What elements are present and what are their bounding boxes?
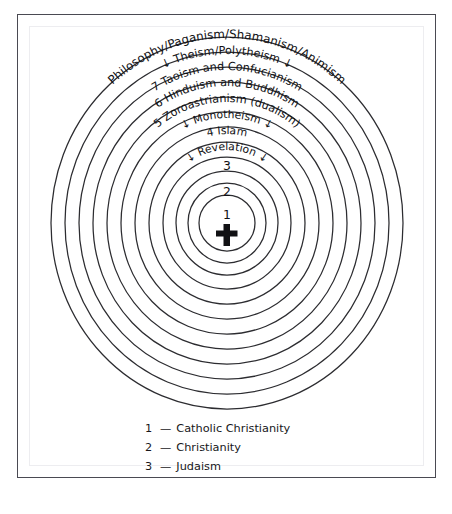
diagram-page: Philosophy/Paganism/Shamanism/Animism ↓ … bbox=[0, 0, 452, 514]
arc-label-islam: 4 Islam bbox=[205, 124, 248, 139]
legend: 1 — Catholic Christianity 2 — Christiani… bbox=[145, 419, 395, 476]
legend-item-1: 1 — Catholic Christianity bbox=[145, 419, 395, 438]
ring-number-3: 3 bbox=[223, 158, 231, 173]
legend-dash-3: — bbox=[154, 457, 176, 476]
legend-label-2: Christianity bbox=[176, 438, 241, 457]
legend-key-1: 1 bbox=[145, 419, 154, 438]
legend-dash-2: — bbox=[154, 438, 176, 457]
ring-number-2: 2 bbox=[223, 184, 231, 199]
latin-cross-icon bbox=[216, 224, 238, 246]
legend-item-3: 3 — Judaism bbox=[145, 457, 395, 476]
legend-key-2: 2 bbox=[145, 438, 154, 457]
legend-label-1: Catholic Christianity bbox=[176, 419, 290, 438]
legend-item-2: 2 — Christianity bbox=[145, 438, 395, 457]
arc-label-monotheism-text: Monotheism bbox=[191, 108, 262, 127]
legend-key-3: 3 bbox=[145, 457, 154, 476]
legend-dash-1: — bbox=[154, 419, 176, 438]
ring-5 bbox=[163, 157, 291, 289]
arc-label-revelation-text: Revelation bbox=[195, 140, 258, 159]
ring-number-1: 1 bbox=[223, 207, 231, 222]
legend-label-3: Judaism bbox=[176, 457, 221, 476]
